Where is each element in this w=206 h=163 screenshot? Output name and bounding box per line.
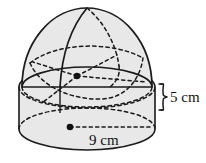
base-center-dot bbox=[67, 124, 74, 131]
height-brace bbox=[159, 84, 167, 110]
height-label: 5 cm bbox=[170, 90, 200, 105]
geometry-figure: 5 cm 9 cm bbox=[0, 0, 206, 163]
brace-path bbox=[161, 84, 167, 110]
sphere-center-dot bbox=[74, 73, 81, 80]
diameter-label: 9 cm bbox=[89, 133, 119, 148]
dome-silhouette bbox=[22, 8, 152, 87]
